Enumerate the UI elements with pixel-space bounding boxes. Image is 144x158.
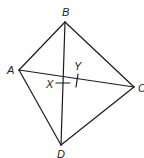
side-da [19, 70, 61, 145]
quadrilateral-diagram: A B C D X Y [0, 0, 144, 158]
vertex-label-b: B [62, 6, 69, 18]
point-label-y: Y [74, 60, 82, 72]
vertex-label-d: D [57, 148, 65, 158]
vertex-label-c: C [138, 82, 144, 94]
side-cd [61, 87, 134, 145]
vertex-label-a: A [6, 64, 14, 76]
side-ab [19, 22, 65, 70]
side-bc [65, 22, 134, 87]
point-label-x: X [45, 78, 54, 90]
point-y-tick [76, 74, 78, 87]
